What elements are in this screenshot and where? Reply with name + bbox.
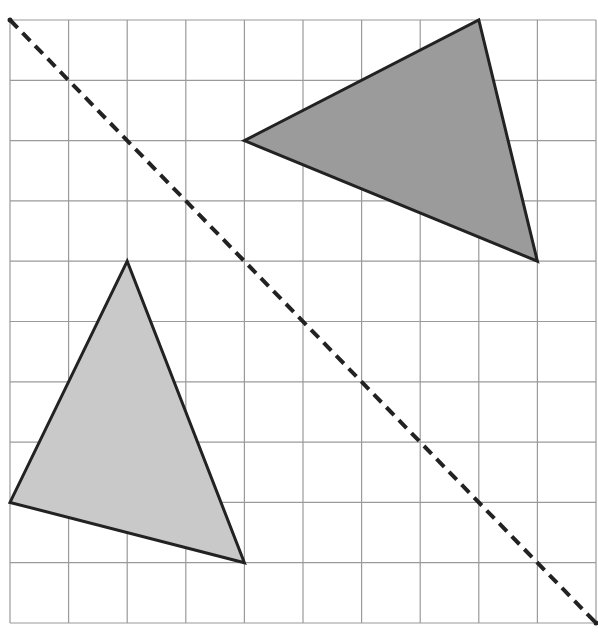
mirror-line-endpoint bbox=[8, 18, 13, 23]
dark-triangle bbox=[244, 20, 537, 261]
grid-diagram bbox=[0, 0, 598, 642]
light-triangle bbox=[10, 261, 244, 563]
